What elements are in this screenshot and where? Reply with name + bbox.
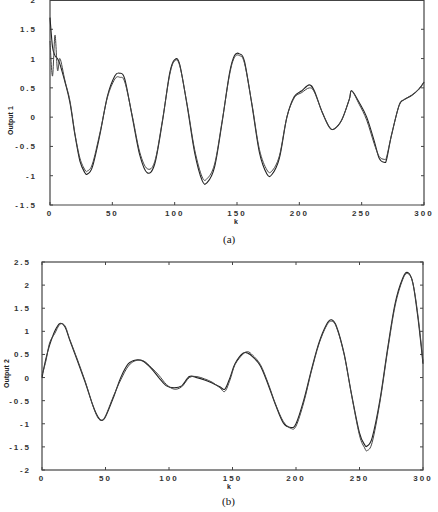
x-tick-label: 200 bbox=[290, 209, 309, 218]
y-tick-label: 2 bbox=[25, 281, 31, 290]
y-tick-label: 2.5 bbox=[14, 258, 31, 267]
series-line-2 bbox=[50, 35, 424, 180]
y-tick-label: -0.5 bbox=[15, 142, 37, 151]
x-tick-label: 250 bbox=[350, 474, 369, 483]
chart-b-axes bbox=[42, 262, 423, 470]
chart-a-x-label: k bbox=[234, 218, 238, 225]
y-tick-label: 1.5 bbox=[14, 304, 31, 313]
y-tick-label: 2 bbox=[31, 0, 37, 5]
y-tick-label: -0.5 bbox=[9, 397, 31, 406]
y-tick-label: -1.5 bbox=[15, 201, 37, 210]
y-tick-label: 1 bbox=[25, 327, 31, 336]
y-tick-label: -1.5 bbox=[9, 443, 31, 452]
x-tick-label: 50 bbox=[99, 474, 112, 483]
y-tick-label: 0 bbox=[31, 113, 37, 122]
x-tick-label: 300 bbox=[413, 474, 432, 483]
x-tick-label: 0 bbox=[47, 209, 53, 218]
x-tick-label: 300 bbox=[414, 209, 433, 218]
chart-a-y-ticks: -1.5-1-0.500.511.52 bbox=[15, 0, 424, 210]
x-tick-label: 100 bbox=[159, 474, 178, 483]
series-line-1 bbox=[42, 272, 423, 446]
x-tick-label: 0 bbox=[39, 474, 45, 483]
chart-a-y-label: Output 1 bbox=[7, 106, 15, 135]
x-tick-label: 200 bbox=[286, 474, 305, 483]
y-tick-label: 0 bbox=[25, 374, 31, 383]
chart-b-y-ticks: -2-1.5-1-0.500.511.522.5 bbox=[9, 258, 423, 475]
y-tick-label: 1 bbox=[31, 55, 37, 64]
chart-b-x-label: k bbox=[227, 483, 231, 490]
figure: 050100150200250300 -1.5-1-0.500.511.52 k… bbox=[0, 0, 438, 512]
x-tick-label: 250 bbox=[352, 209, 371, 218]
y-tick-label: -2 bbox=[20, 466, 31, 475]
series-line-2 bbox=[42, 273, 423, 450]
x-tick-label: 150 bbox=[227, 209, 246, 218]
y-tick-label: 1.5 bbox=[20, 25, 37, 34]
x-tick-label: 100 bbox=[165, 209, 184, 218]
chart-b-y-label: Output 2 bbox=[3, 359, 11, 388]
chart-a-series bbox=[50, 18, 424, 185]
chart-b-x-ticks: 050100150200250300 bbox=[39, 262, 433, 483]
y-tick-label: -1 bbox=[26, 172, 37, 181]
chart-b: 050100150200250300 -2-1.5-1-0.500.511.52… bbox=[3, 258, 433, 508]
chart-b-series bbox=[42, 272, 423, 450]
y-tick-label: -1 bbox=[20, 420, 31, 429]
y-tick-label: 0.5 bbox=[14, 350, 31, 359]
x-tick-label: 150 bbox=[223, 474, 242, 483]
chart-a: 050100150200250300 -1.5-1-0.500.511.52 k… bbox=[7, 0, 434, 246]
chart-a-caption: (a) bbox=[223, 233, 236, 246]
chart-b-caption: (b) bbox=[222, 495, 235, 508]
y-tick-label: 0.5 bbox=[20, 84, 37, 93]
x-tick-label: 50 bbox=[106, 209, 119, 218]
